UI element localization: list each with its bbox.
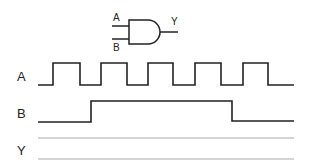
and-gate — [112, 20, 178, 44]
gate-output-label: Y — [171, 16, 178, 27]
and-gate-body — [129, 20, 160, 44]
signal-b-waveform — [38, 101, 294, 122]
gate-input-a-label: A — [113, 12, 120, 23]
signal-a-waveform — [38, 63, 294, 85]
gate-input-b-label: B — [113, 42, 120, 53]
row-label-a: A — [17, 69, 26, 84]
row-label-y: Y — [17, 143, 26, 158]
row-label-b: B — [17, 106, 26, 121]
timing-diagram: A B Y A B Y — [0, 0, 312, 168]
